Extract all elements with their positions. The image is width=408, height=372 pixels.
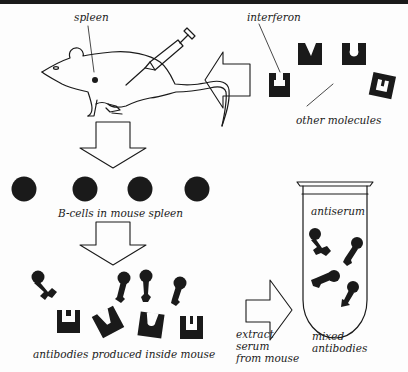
label-b-cells: B-cells in mouse spleen	[58, 207, 183, 219]
antibody	[311, 270, 340, 288]
label-extract-line1: extract	[236, 328, 274, 340]
b-cell	[73, 177, 98, 202]
label-antibodies-produced: antibodies produced inside mouse	[33, 348, 215, 360]
antibody	[343, 237, 363, 266]
antibody	[171, 277, 187, 307]
label-other-molecules: other molecules	[296, 114, 381, 126]
spleen-dot	[92, 77, 98, 83]
antigen-block	[92, 306, 124, 338]
antibody	[341, 281, 359, 307]
label-mixed-line1: mixed	[312, 330, 344, 342]
antigen-block	[57, 310, 80, 333]
label-spleen: spleen	[74, 11, 109, 23]
antibody	[140, 270, 153, 303]
spleen-pointer-line	[88, 26, 94, 72]
antibody	[115, 272, 131, 304]
interferon-pointer-line	[259, 24, 280, 72]
other-molecules-pointer-line	[307, 84, 333, 106]
b-cell	[12, 177, 37, 202]
label-extract-line3: from mouse	[236, 352, 299, 364]
antigen-molecules	[269, 43, 396, 99]
other-molecule-3	[369, 72, 396, 99]
b-cell	[185, 177, 210, 202]
other-molecule-2	[342, 43, 366, 65]
b-cells	[12, 177, 210, 202]
label-extract-line2: serum	[236, 340, 269, 352]
arrow-left-inject	[205, 52, 250, 108]
arrow-down-to-antibodies	[80, 222, 146, 265]
diagram-canvas: spleen interferon other molecules B-cell…	[0, 0, 408, 372]
antigen-block	[137, 311, 164, 338]
antibody	[32, 271, 58, 301]
label-antiserum: antiserum	[311, 205, 365, 217]
b-cell	[128, 177, 153, 202]
antibodies-group	[32, 270, 187, 307]
label-interferon: interferon	[247, 11, 301, 23]
antigen-blocks-bottom	[57, 306, 203, 339]
other-molecule-1	[298, 43, 322, 65]
interferon-molecule	[269, 73, 290, 97]
tube-antibodies	[309, 228, 363, 307]
arrow-down-to-bcells	[80, 122, 146, 168]
antigen-block	[180, 316, 203, 339]
diagram-artwork	[0, 0, 408, 372]
mouse-illustration	[42, 48, 229, 126]
antibody	[309, 228, 331, 256]
label-mixed-line2: antibodies	[312, 342, 367, 354]
syringe-icon	[126, 28, 195, 85]
